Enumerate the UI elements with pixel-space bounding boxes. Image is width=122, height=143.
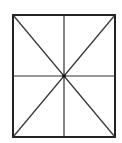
divided-rectangle-diagram <box>0 0 122 143</box>
center-point <box>62 74 66 78</box>
